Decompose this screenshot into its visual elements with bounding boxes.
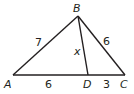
segment-label-dc: 3: [103, 78, 110, 91]
vertex-label-d: D: [83, 78, 91, 91]
vertex-label-a: A: [3, 78, 12, 91]
segment-label-ab: 7: [35, 36, 42, 49]
segment-ab: [13, 16, 78, 75]
segment-bc: [78, 16, 125, 75]
triangle-diagram: B A D C 7 6 x 6 3: [0, 0, 134, 94]
segment-label-bd: x: [73, 45, 81, 58]
segment-label-bc: 6: [103, 35, 110, 48]
vertex-label-b: B: [73, 2, 81, 15]
segment-label-ad: 6: [45, 78, 52, 91]
vertex-label-c: C: [120, 78, 128, 91]
